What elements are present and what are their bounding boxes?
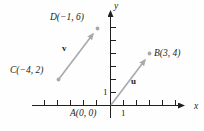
x-axis-name-label: x [194, 102, 198, 112]
y-axis-name-label: y [114, 2, 118, 12]
point-label-A: A(0, 0) [70, 109, 96, 119]
vector-label-v: v [62, 44, 67, 53]
y-axis-ticks [111, 28, 117, 93]
point-B-marker [148, 52, 152, 56]
x-axis [32, 100, 184, 106]
vector-diagram-figure: D(−1, 6) C(−4, 2) B(3, 4) A(0, 0) v u 1 … [0, 0, 204, 131]
x-axis-tick-label-1: 1 [121, 109, 126, 118]
point-D-marker [96, 27, 100, 31]
y-axis-tick-label-1: 1 [103, 88, 108, 97]
vector-v [57, 27, 100, 82]
point-label-C: C(−4, 2) [10, 66, 43, 76]
vector-label-u: u [131, 77, 136, 86]
point-label-B: B(3, 4) [154, 49, 180, 59]
point-C-marker [57, 78, 61, 82]
vector-u-arrow [111, 60, 145, 105]
vector-v-arrow [59, 34, 94, 80]
point-label-D: D(−1, 6) [50, 13, 84, 23]
